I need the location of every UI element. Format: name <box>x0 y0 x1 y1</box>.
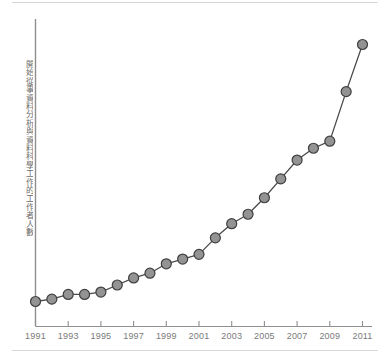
x-axis-tick-label: 2007 <box>287 331 308 341</box>
data-point-marker <box>145 268 155 278</box>
data-point-marker <box>47 294 57 304</box>
data-point-marker <box>129 273 139 283</box>
data-point-marker <box>63 289 73 299</box>
data-point-markers <box>31 40 368 307</box>
data-point-marker <box>31 297 41 307</box>
data-point-marker <box>210 233 220 243</box>
x-axis-tick-label: 2001 <box>189 331 210 341</box>
x-axis-tick-label: 1995 <box>90 331 111 341</box>
x-axis-tick-label: 1999 <box>156 331 177 341</box>
data-point-marker <box>325 136 335 146</box>
data-point-marker <box>358 40 368 50</box>
data-point-marker <box>112 280 122 290</box>
data-point-marker <box>178 254 188 264</box>
x-axis-tick-label: 2011 <box>352 331 372 341</box>
x-axis-tick-label: 2003 <box>221 331 242 341</box>
x-axis-tick-label: 1997 <box>123 331 144 341</box>
data-point-marker <box>194 249 204 259</box>
data-point-marker <box>259 193 269 203</box>
axes <box>36 19 373 327</box>
data-point-marker <box>276 174 286 184</box>
data-point-marker <box>80 289 90 299</box>
x-axis-ticks <box>36 321 363 327</box>
data-point-marker <box>308 143 318 153</box>
x-axis-tick-label: 2009 <box>319 331 340 341</box>
x-axis-tick-label: 1993 <box>58 331 79 341</box>
plot-area <box>0 0 390 363</box>
data-point-marker <box>96 287 106 297</box>
data-series-line <box>36 45 363 302</box>
x-axis-tick-label: 2005 <box>254 331 275 341</box>
data-point-marker <box>161 259 171 269</box>
x-axis-tick-label: 1991 <box>25 331 46 341</box>
data-point-marker <box>292 155 302 165</box>
data-point-marker <box>341 87 351 97</box>
chart-figure: 開始從事資料分析與資料科學工作的工作者人數 199119931995199719… <box>0 0 390 363</box>
data-point-marker <box>243 209 253 219</box>
data-point-marker <box>227 219 237 229</box>
